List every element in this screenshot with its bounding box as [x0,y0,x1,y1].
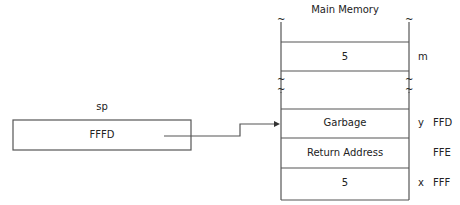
break-symbol: ~ [277,14,285,25]
stack-cell-addr: FFF [433,177,450,188]
break-symbol: ~ [405,84,413,95]
stack-cell-var: y [418,117,424,128]
stack-cell-addr: FFD [433,117,452,128]
break-symbol: ~ [277,84,285,95]
stack-cell-addr: FFE [433,147,451,158]
stack-cell-value: 5 [281,177,409,188]
stack-cell-var: x [418,177,424,188]
register-label: sp [13,101,191,112]
memory-cell-var: m [418,51,428,62]
memory-cell-value: 5 [281,51,409,62]
break-symbol: ~ [405,14,413,25]
stack-cell-value: Return Address [281,147,409,158]
diagram-title: Main Memory [281,4,409,15]
register-value: FFFD [13,129,191,140]
stack-cell-value: Garbage [281,117,409,128]
